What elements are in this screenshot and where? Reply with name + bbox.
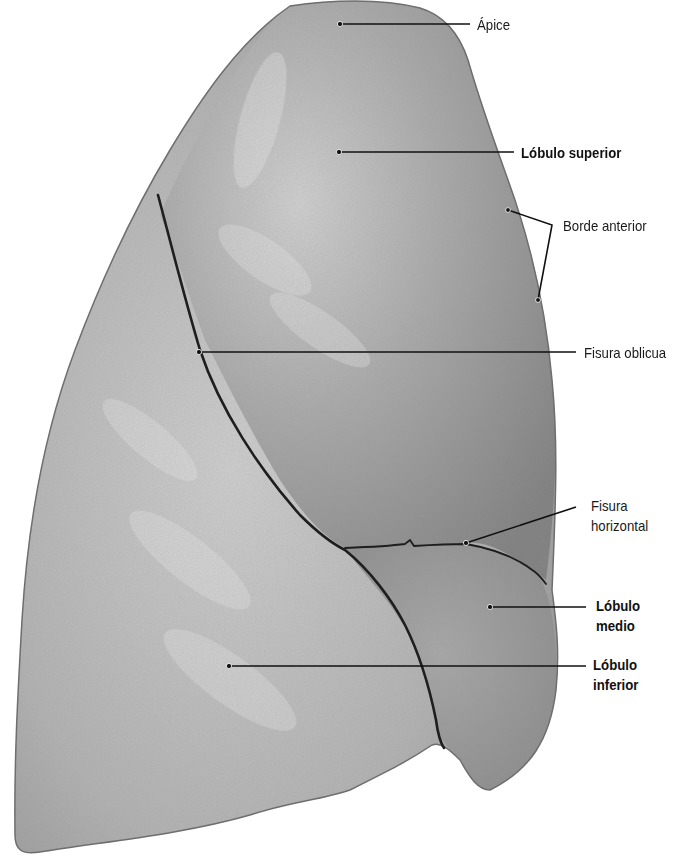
- label-fisura-horizontal: Fisura horizontal: [591, 496, 648, 536]
- label-borde-anterior: Borde anterior: [563, 216, 647, 236]
- label-fisura-horizontal-line2: horizontal: [591, 516, 648, 536]
- lung-illustration: [0, 0, 697, 858]
- label-lobulo-medio-line2: medio: [596, 616, 640, 636]
- label-lobulo-superior: Lóbulo superior: [521, 143, 621, 163]
- label-lobulo-medio: Lóbulo medio: [596, 596, 640, 636]
- label-lobulo-inferior-line1: Lóbulo: [593, 655, 638, 675]
- label-lobulo-inferior-line2: inferior: [593, 675, 638, 695]
- label-apice: Ápice: [477, 15, 510, 35]
- label-lobulo-medio-line1: Lóbulo: [596, 596, 640, 616]
- label-lobulo-inferior: Lóbulo inferior: [593, 655, 638, 695]
- label-fisura-horizontal-line1: Fisura: [591, 496, 648, 516]
- label-fisura-oblicua: Fisura oblicua: [584, 343, 666, 363]
